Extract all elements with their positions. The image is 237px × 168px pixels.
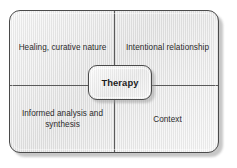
quadrant-top-right-label: Intentional relationship xyxy=(126,42,209,53)
quadrant-bottom-right-label: Context xyxy=(153,114,182,125)
diagram-canvas: Healing, curative nature Intentional rel… xyxy=(0,0,237,168)
center-box-therapy[interactable]: Therapy xyxy=(88,65,152,100)
quadrant-top-left-label: Healing, curative nature xyxy=(19,42,107,53)
center-box-label: Therapy xyxy=(101,77,138,88)
quadrant-bottom-left-label: Informed analysis and synthesis xyxy=(16,108,109,130)
